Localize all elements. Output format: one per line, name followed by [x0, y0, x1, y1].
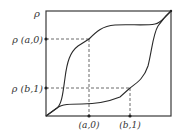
marker-dot-top-right	[170, 10, 172, 12]
y-marker-label-rho-a0: ρ (a,0)	[11, 34, 43, 45]
x-marker-label-a0: (a,0)	[79, 120, 100, 130]
hysteresis-diagram: ρ ρ (a,0) ρ (b,1) (a,0) (b,1)	[0, 0, 180, 138]
x-marker-label-b1: (b,1)	[119, 120, 141, 130]
y-axis-label: ρ	[33, 8, 40, 19]
diagram-canvas: ρ ρ (a,0) ρ (b,1) (a,0) (b,1)	[0, 0, 180, 138]
lower-branch-curve	[46, 11, 171, 116]
y-marker-label-rho-b1: ρ (b,1)	[11, 83, 43, 94]
marker-dot-b1	[128, 114, 131, 117]
marker-dot-rho-a0	[44, 37, 47, 40]
marker-dot-rho-b1	[44, 86, 47, 89]
marker-dot-a0	[87, 114, 90, 117]
